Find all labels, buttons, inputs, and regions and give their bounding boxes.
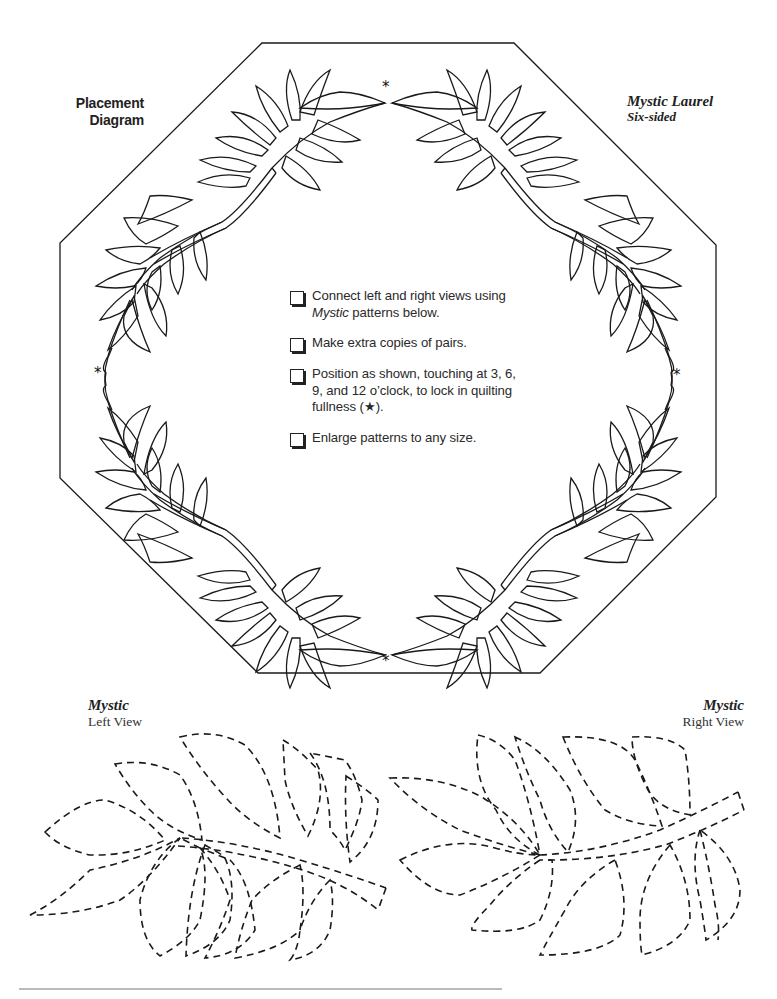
checklist-item-text: Connect left and right views using Mysti… [312, 288, 520, 321]
instruction-checklist: Connect left and right views using Mysti… [290, 288, 520, 461]
mystic-left-view-pattern [30, 734, 386, 960]
left-view-subtitle: Left View [88, 714, 142, 730]
checklist-item-text: Enlarge patterns to any size. [312, 430, 476, 447]
right-view-subtitle: Right View [682, 714, 744, 730]
pattern-name: Mystic Laurel [627, 93, 713, 109]
pattern-subtitle: Six-sided [627, 109, 676, 124]
star-marker-3-oclock: * [673, 368, 681, 383]
star-marker-9-oclock: * [94, 366, 102, 381]
star-marker-12-oclock: * [382, 80, 390, 95]
checklist-item: Enlarge patterns to any size. [290, 430, 520, 447]
checkbox-icon [290, 369, 304, 383]
checkbox-icon [290, 291, 304, 305]
checklist-item: Make extra copies of pairs. [290, 335, 520, 352]
checklist-item-text: Make extra copies of pairs. [312, 335, 467, 352]
placement-diagram-artwork [0, 0, 777, 999]
checklist-item: Position as shown, touching at 3, 6, 9, … [290, 366, 520, 416]
placement-diagram-line2: Diagram [66, 112, 144, 129]
mystic-right-view-pattern [390, 735, 744, 955]
checkbox-icon [290, 433, 304, 447]
placement-diagram-heading: Placement Diagram [66, 95, 144, 129]
left-view-title: Mystic [88, 697, 129, 714]
checklist-item-text: Position as shown, touching at 3, 6, 9, … [312, 366, 520, 416]
right-view-title: Mystic [703, 697, 744, 714]
star-marker-6-oclock: * [382, 654, 390, 669]
checklist-item: Connect left and right views using Mysti… [290, 288, 520, 321]
checkbox-icon [290, 338, 304, 352]
placement-diagram-line1: Placement [66, 95, 144, 112]
